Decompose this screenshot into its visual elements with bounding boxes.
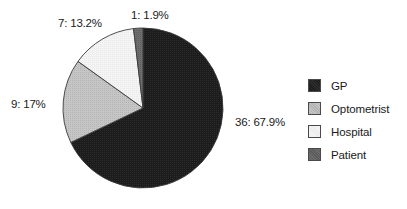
slice-label-hospital: 7: 13.2% <box>58 18 102 30</box>
slice-label-patient: 1: 1.9% <box>131 10 169 22</box>
legend-item-optometrist: Optometrist <box>308 97 389 120</box>
legend-label-patient: Patient <box>331 149 366 161</box>
slice-label-gp: 36: 67.9% <box>235 117 285 129</box>
pie-slices-group <box>63 28 223 188</box>
chart-legend: GP Optometrist Hospital Patient <box>308 74 389 166</box>
legend-label-gp: GP <box>331 80 347 92</box>
legend-swatch-icon-optometrist <box>308 102 321 115</box>
legend-swatch-icon-gp <box>308 79 321 92</box>
legend-item-patient: Patient <box>308 143 389 166</box>
legend-item-hospital: Hospital <box>308 120 389 143</box>
slice-label-optometrist: 9: 17% <box>11 99 46 111</box>
legend-swatch-icon-hospital <box>308 125 321 138</box>
legend-swatch-icon-patient <box>308 148 321 161</box>
legend-item-gp: GP <box>308 74 389 97</box>
pie-chart-figure: 1: 1.9% 7: 13.2% 9: 17% 36: 67.9% GP Opt… <box>0 0 407 209</box>
legend-label-optometrist: Optometrist <box>331 103 389 115</box>
legend-label-hospital: Hospital <box>331 126 372 138</box>
